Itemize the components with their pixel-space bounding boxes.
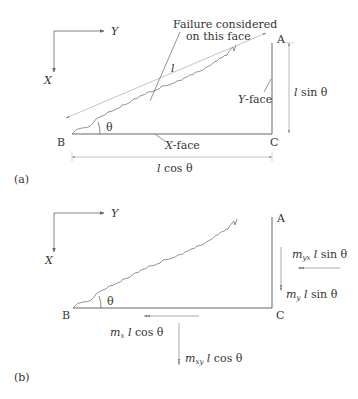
x-face-leader (155, 134, 166, 142)
x-axis-label: X (43, 74, 53, 87)
vertex-a-label: A (276, 212, 286, 225)
angle-arc (99, 296, 101, 308)
axes-icon (54, 31, 104, 72)
axes-icon (54, 213, 104, 252)
panel-label-a: (a) (14, 173, 29, 186)
angle-theta-label: θ (106, 121, 113, 134)
mxy-label: mxy l cos θ (185, 352, 243, 366)
x-axis-label: X (44, 254, 54, 267)
y-face-label: Y-face (238, 93, 272, 106)
my-label: my l sin θ (286, 288, 338, 302)
y-face-leader (264, 79, 271, 92)
failure-annotation-line2: on this face (186, 30, 251, 43)
angle-theta-label: θ (107, 295, 114, 308)
diagram-canvas: Y X θ A B C l Failure considered on this… (0, 0, 358, 399)
rough-failure-face (73, 219, 237, 308)
rough-failure-face (72, 45, 236, 134)
myx-label: myx l sin θ (292, 248, 348, 262)
width-dimension-label: l cos θ (157, 162, 193, 175)
figure-b: Y X θ A B C myx l sin θ my l sin θ mx l … (14, 207, 348, 384)
vertex-b-label: B (62, 309, 70, 322)
hyp-length-label: l (171, 62, 175, 75)
height-dimension-label: l sin θ (294, 86, 328, 99)
figure-a: Y X θ A B C l Failure considered on this… (14, 18, 328, 186)
y-axis-label: Y (111, 25, 120, 38)
triangle-abc (72, 43, 272, 134)
vertex-b-label: B (57, 136, 65, 149)
hypotenuse-dimension-line (66, 33, 266, 118)
vertex-c-label: C (276, 309, 284, 322)
y-axis-label: Y (111, 207, 120, 220)
angle-arc (98, 122, 100, 134)
panel-label-b: (b) (14, 371, 30, 384)
triangle-abc (73, 217, 272, 308)
vertex-a-label: A (276, 33, 286, 46)
x-face-label: X-face (164, 139, 200, 152)
mx-label: mx l cos θ (110, 326, 164, 340)
annotation-leader-line (150, 32, 180, 101)
vertex-c-label: C (270, 136, 278, 149)
